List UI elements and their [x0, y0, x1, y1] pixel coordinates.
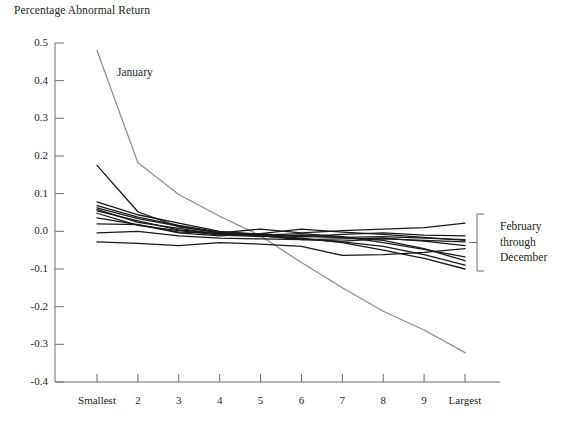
legend-bracket	[469, 214, 484, 271]
bracket-label-line-3: December	[500, 250, 547, 266]
x-axis-tick-label: 3	[176, 395, 182, 406]
y-axis-tick-label: 0.0	[14, 225, 48, 236]
x-axis-tick-label: 8	[380, 395, 386, 406]
bracket-label-line-1: February	[500, 219, 547, 235]
x-axis-tick-label: 4	[217, 395, 223, 406]
x-axis-tick-label: 2	[135, 395, 141, 406]
y-axis-tick-label: 0.2	[14, 150, 48, 161]
series-line-month-2	[97, 165, 465, 265]
y-axis-tick-label: -0.1	[14, 263, 48, 274]
y-axis-tick-label: 0.3	[14, 112, 48, 123]
y-axis-tick-label: -0.3	[14, 338, 48, 349]
series-group	[97, 51, 465, 353]
bracket-label-line-2: through	[500, 235, 547, 251]
x-axis-tick-label: Smallest	[78, 395, 116, 406]
x-axis-tick-label: 6	[299, 395, 305, 406]
x-axis-tick-label: Largest	[449, 395, 482, 406]
y-axis-tick-label: 0.5	[14, 37, 48, 48]
y-axis-tick-label: 0.1	[14, 188, 48, 199]
y-axis-tick-label: -0.2	[14, 301, 48, 312]
bracket-shape	[477, 214, 484, 271]
y-axis-tick-label: 0.4	[14, 75, 48, 86]
y-axis-tick-label: -0.4	[14, 376, 48, 387]
january-series-label: January	[117, 66, 153, 78]
x-axis-tick-label: 7	[340, 395, 346, 406]
series-line-month-9	[97, 224, 465, 237]
x-axis-tick-label: 5	[258, 395, 264, 406]
series-line-january	[97, 51, 465, 353]
x-axis-tick-label: 9	[421, 395, 427, 406]
line-chart-plot	[0, 0, 567, 421]
bracket-legend-label: February through December	[500, 219, 547, 266]
chart-figure: Percentage Abnormal Return 0.50.40.30.20…	[0, 0, 567, 421]
